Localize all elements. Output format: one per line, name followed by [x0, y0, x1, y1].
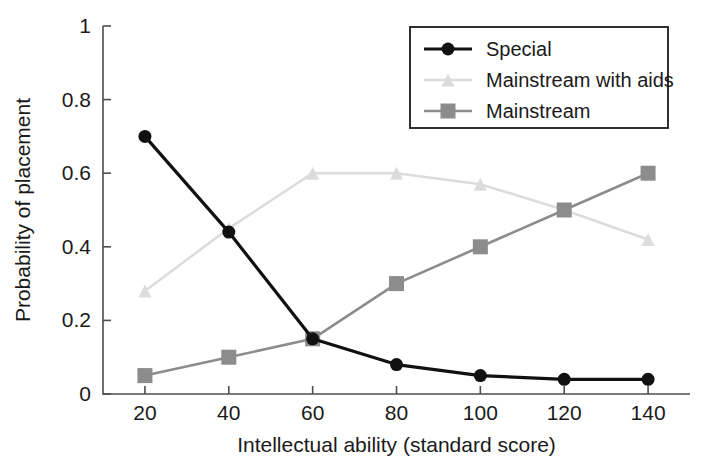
legend-label: Special — [486, 38, 552, 60]
y-tick-label: 1 — [79, 14, 91, 37]
data-point — [137, 368, 152, 383]
x-tick-label: 120 — [547, 401, 582, 424]
data-series — [137, 130, 655, 386]
data-point — [306, 332, 319, 345]
x-tick-label: 140 — [631, 401, 666, 424]
series-mainstream — [137, 166, 655, 383]
data-point — [557, 203, 572, 218]
y-tick-label: 0.2 — [62, 308, 91, 331]
data-point — [473, 239, 488, 254]
data-point — [474, 369, 487, 382]
x-tick-label: 100 — [463, 401, 498, 424]
data-point — [641, 166, 656, 181]
legend-marker-square-icon — [441, 104, 456, 119]
x-tick-label: 20 — [133, 401, 156, 424]
y-tick-label: 0.8 — [62, 88, 91, 111]
x-axis-title: Intellectual ability (standard score) — [237, 433, 556, 456]
data-point — [221, 350, 236, 365]
x-tick-label: 60 — [301, 401, 324, 424]
legend-marker-circle-icon — [442, 43, 455, 56]
data-point — [390, 358, 403, 371]
series-line — [145, 173, 648, 291]
data-point — [222, 226, 235, 239]
series-line — [145, 173, 648, 375]
y-tick-label: 0.6 — [62, 161, 91, 184]
chart-figure: 00.20.40.60.81 20406080100120140 Intelle… — [0, 0, 715, 464]
x-tick-label: 80 — [385, 401, 408, 424]
legend-label: Mainstream with aids — [486, 69, 674, 91]
chart-legend: SpecialMainstream with aidsMainstream — [410, 27, 674, 128]
x-tick-label: 40 — [217, 401, 240, 424]
line-chart: 00.20.40.60.81 20406080100120140 Intelle… — [0, 0, 715, 464]
data-point — [138, 130, 151, 143]
data-point — [642, 373, 655, 386]
legend-label: Mainstream — [486, 100, 590, 122]
y-axis-title: Probability of placement — [11, 98, 34, 322]
y-tick-label: 0.4 — [62, 235, 92, 258]
x-axis-ticks: 20406080100120140 — [133, 386, 665, 424]
data-point — [389, 276, 404, 291]
data-point — [558, 373, 571, 386]
data-point — [642, 233, 655, 246]
y-tick-label: 0 — [79, 382, 91, 405]
